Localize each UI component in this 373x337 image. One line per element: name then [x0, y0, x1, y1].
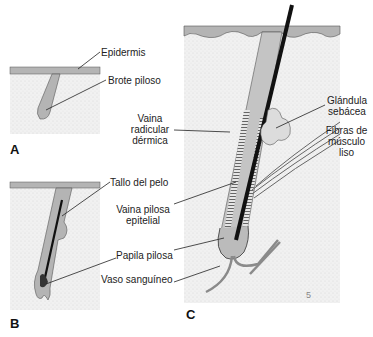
panel-label-b: B: [10, 316, 19, 331]
label-papila-pilosa: Papila pilosa: [116, 250, 173, 261]
panel-a-drawing: [10, 67, 100, 134]
label-vaso-sanguineo: Vaso sanguíneo: [101, 274, 173, 285]
hair-follicle-diagram: [0, 0, 373, 337]
label-epidermis: Epidermis: [101, 47, 145, 58]
panel-label-a: A: [10, 142, 19, 157]
label-fibras-musculo-liso: Fibras de músculo liso: [320, 125, 373, 158]
label-vaina-radicular: Vaina radicular dérmica: [128, 113, 172, 146]
panel-b-drawing: [10, 182, 100, 310]
panel-label-c: C: [186, 307, 195, 322]
label-vaina-pilosa: Vaina pilosa epitelial: [110, 204, 176, 226]
label-brote-piloso: Brote piloso: [108, 75, 161, 86]
label-tallo-del-pelo: Tallo del pelo: [110, 177, 168, 188]
page-number: 5: [306, 290, 311, 301]
panel-c-drawing: [184, 5, 340, 303]
label-glandula-sebacea: Glándula sebácea: [322, 95, 372, 117]
